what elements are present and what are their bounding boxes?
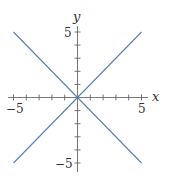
x-tick-label-max: 5 bbox=[138, 102, 146, 116]
chart: x y −5 5 5 −5 bbox=[0, 0, 169, 181]
x-axis-label: x bbox=[152, 89, 160, 104]
y-tick-label-min: −5 bbox=[55, 157, 73, 171]
y-axis-label: y bbox=[72, 9, 81, 24]
y-tick-label-max: 5 bbox=[64, 26, 72, 40]
x-tick-label-min: −5 bbox=[6, 102, 24, 116]
